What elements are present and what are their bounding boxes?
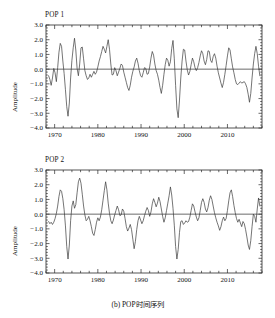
svg-text:2000: 2000: [177, 276, 192, 284]
panel-pop2: POP 2 Amplitude 19701980199020002010−4.0…: [0, 154, 275, 300]
panel-pop1-plot: 19701980199020002010−4.0−3.0−2.0−1.00.01…: [0, 8, 275, 156]
svg-text:0.0: 0.0: [34, 211, 43, 219]
svg-text:1970: 1970: [48, 276, 63, 284]
svg-text:1980: 1980: [91, 276, 106, 284]
svg-text:1.0: 1.0: [34, 196, 43, 204]
svg-text:−2.0: −2.0: [30, 240, 43, 248]
svg-text:−4.0: −4.0: [30, 269, 43, 277]
figure-caption: (b) POP时间序列: [0, 298, 275, 309]
svg-text:0.0: 0.0: [34, 66, 43, 74]
svg-text:1980: 1980: [91, 131, 106, 139]
svg-text:2.0: 2.0: [34, 181, 43, 189]
svg-text:2000: 2000: [177, 131, 192, 139]
svg-text:3.0: 3.0: [34, 166, 43, 174]
svg-text:1970: 1970: [48, 131, 63, 139]
svg-text:−4.0: −4.0: [30, 124, 43, 132]
svg-text:−3.0: −3.0: [30, 255, 43, 263]
svg-text:−1.0: −1.0: [30, 225, 43, 233]
svg-text:1990: 1990: [134, 276, 149, 284]
panel-pop2-plot: 19701980199020002010−4.0−3.0−2.0−1.00.01…: [0, 154, 275, 300]
svg-text:1990: 1990: [134, 131, 149, 139]
svg-text:2.0: 2.0: [34, 36, 43, 44]
svg-text:2010: 2010: [220, 131, 235, 139]
pop-time-series-figure: POP 1 Amplitude 19701980199020002010−4.0…: [0, 0, 275, 318]
svg-text:−1.0: −1.0: [30, 80, 43, 88]
svg-text:2010: 2010: [220, 276, 235, 284]
panel-pop1: POP 1 Amplitude 19701980199020002010−4.0…: [0, 8, 275, 156]
svg-text:3.0: 3.0: [34, 21, 43, 29]
svg-text:−2.0: −2.0: [30, 95, 43, 103]
svg-text:−3.0: −3.0: [30, 110, 43, 118]
svg-text:1.0: 1.0: [34, 51, 43, 59]
